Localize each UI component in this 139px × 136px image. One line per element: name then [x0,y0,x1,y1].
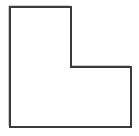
l-shape-svg: Outline drawing of an L-shaped hexagon [0,0,139,136]
figure-canvas: Outline drawing of an L-shaped hexagon [0,0,139,136]
l-shape-outline [10,7,131,127]
